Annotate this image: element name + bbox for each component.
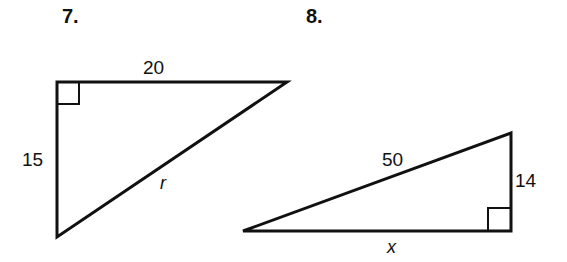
problem-7-number: 7.: [62, 6, 79, 26]
problem-8-hypotenuse-label: 50: [382, 150, 403, 169]
right-angle-marker-8: [488, 208, 511, 231]
right-angle-marker-7: [57, 82, 79, 104]
triangles-figure: [0, 0, 567, 262]
problem-7-hypotenuse-label: r: [160, 174, 166, 192]
triangle-8: [243, 133, 511, 231]
triangle-7: [57, 82, 287, 237]
problem-8-number: 8.: [306, 6, 323, 26]
problem-7-left-leg-label: 15: [22, 150, 43, 169]
problem-8-bottom-leg-label: x: [387, 238, 396, 256]
problem-7-top-leg-label: 20: [143, 58, 164, 77]
problem-8-right-leg-label: 14: [515, 171, 536, 190]
